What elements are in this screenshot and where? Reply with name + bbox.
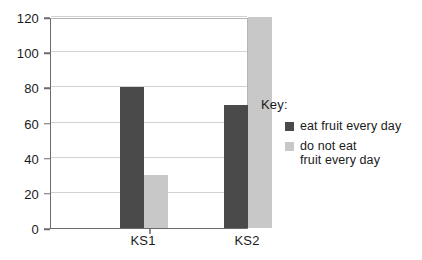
x-tick-label: KS2 bbox=[234, 233, 259, 248]
plot-area bbox=[50, 18, 248, 229]
legend: Key: eat fruit every daydo not eat fruit… bbox=[261, 97, 419, 173]
legend-swatch-icon bbox=[285, 122, 294, 131]
bars-layer bbox=[51, 19, 247, 228]
x-tick-label: KS1 bbox=[130, 233, 155, 248]
x-axis-labels: KS1KS2 bbox=[50, 233, 248, 253]
y-tick-label: 20 bbox=[24, 187, 39, 200]
bar bbox=[120, 87, 144, 228]
legend-items: eat fruit every daydo not eat fruit ever… bbox=[261, 119, 419, 168]
legend-item: do not eat fruit every day bbox=[285, 139, 419, 168]
legend-swatch-icon bbox=[285, 142, 294, 151]
y-tick-label: 100 bbox=[17, 47, 39, 60]
x-tick-mark bbox=[149, 229, 151, 234]
bar bbox=[224, 105, 248, 228]
legend-label: do not eat fruit every day bbox=[300, 139, 380, 168]
gridline bbox=[51, 16, 247, 17]
y-tick-label: 120 bbox=[17, 12, 39, 25]
y-axis: 020406080100120 bbox=[0, 0, 50, 248]
legend-title: Key: bbox=[261, 97, 419, 112]
bar-chart-figure: 020406080100120 KS1KS2 Key: eat fruit ev… bbox=[0, 0, 422, 260]
y-tick-label: 80 bbox=[24, 82, 39, 95]
bar bbox=[144, 175, 168, 228]
y-tick-label: 60 bbox=[24, 117, 39, 130]
y-tick-label: 0 bbox=[32, 223, 39, 236]
y-tick-label: 40 bbox=[24, 152, 39, 165]
legend-label: eat fruit every day bbox=[300, 119, 401, 134]
legend-item: eat fruit every day bbox=[285, 119, 419, 134]
